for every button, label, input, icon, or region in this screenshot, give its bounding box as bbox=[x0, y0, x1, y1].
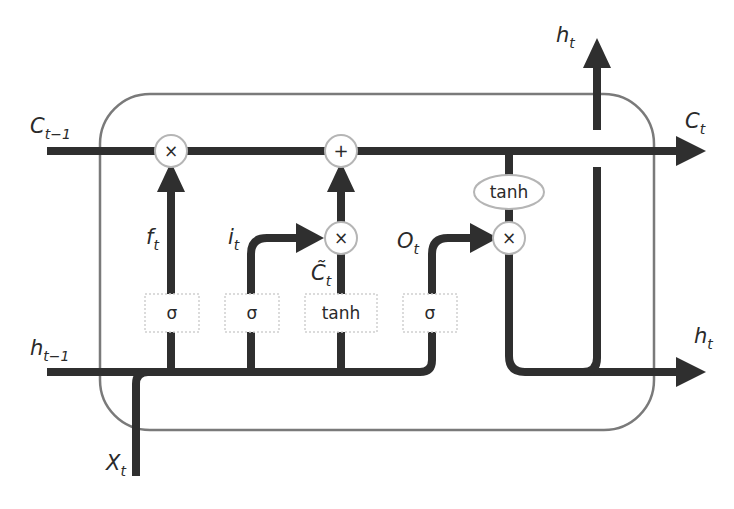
label-hidden-prev: ht−1 bbox=[30, 336, 69, 364]
label-input-xt: Xt bbox=[105, 451, 126, 479]
tanh-label: tanh bbox=[490, 182, 529, 202]
plus-icon: + bbox=[333, 140, 348, 161]
input-gate-arrow-icon bbox=[296, 223, 324, 253]
gate-label: σ bbox=[167, 303, 178, 323]
input-xt-line bbox=[136, 372, 148, 476]
output-multiply-node: × bbox=[493, 222, 525, 254]
multiply-icon: × bbox=[334, 228, 348, 248]
forget-gate: σ bbox=[145, 294, 199, 332]
hidden-branch-path bbox=[583, 167, 597, 372]
hidden-output-arrow-icon bbox=[676, 357, 706, 387]
hidden-up-arrow-icon bbox=[583, 38, 611, 68]
cell-state-arrow-icon bbox=[676, 136, 706, 166]
cell-add-node: + bbox=[325, 135, 357, 167]
output-gate: σ bbox=[403, 294, 457, 332]
label-cell-out: Ct bbox=[685, 109, 706, 137]
lstm-cell-diagram: σ σ tanh σ × + × × tanh Ct−1 ht−1 Xt bbox=[0, 0, 734, 509]
cell-tanh-node: tanh bbox=[474, 175, 544, 209]
label-hidden-right: ht bbox=[694, 324, 713, 352]
multiply-icon: × bbox=[502, 228, 516, 248]
label-candidate: C̃t bbox=[311, 260, 332, 289]
gate-label: tanh bbox=[322, 303, 361, 323]
label-cell-prev: Ct−1 bbox=[30, 114, 71, 142]
gate-label: σ bbox=[247, 303, 258, 323]
label-hidden-up: ht bbox=[556, 23, 575, 51]
label-output-gate: Ot bbox=[397, 229, 420, 257]
input-multiply-node: × bbox=[325, 222, 357, 254]
candidate-gate: tanh bbox=[305, 294, 377, 332]
input-gate: σ bbox=[225, 294, 279, 332]
multiply-icon: × bbox=[164, 141, 178, 161]
gate-label: σ bbox=[425, 303, 436, 323]
label-input-gate: it bbox=[228, 225, 240, 253]
label-forget-gate: ft bbox=[146, 225, 159, 253]
forget-multiply-node: × bbox=[155, 135, 187, 167]
